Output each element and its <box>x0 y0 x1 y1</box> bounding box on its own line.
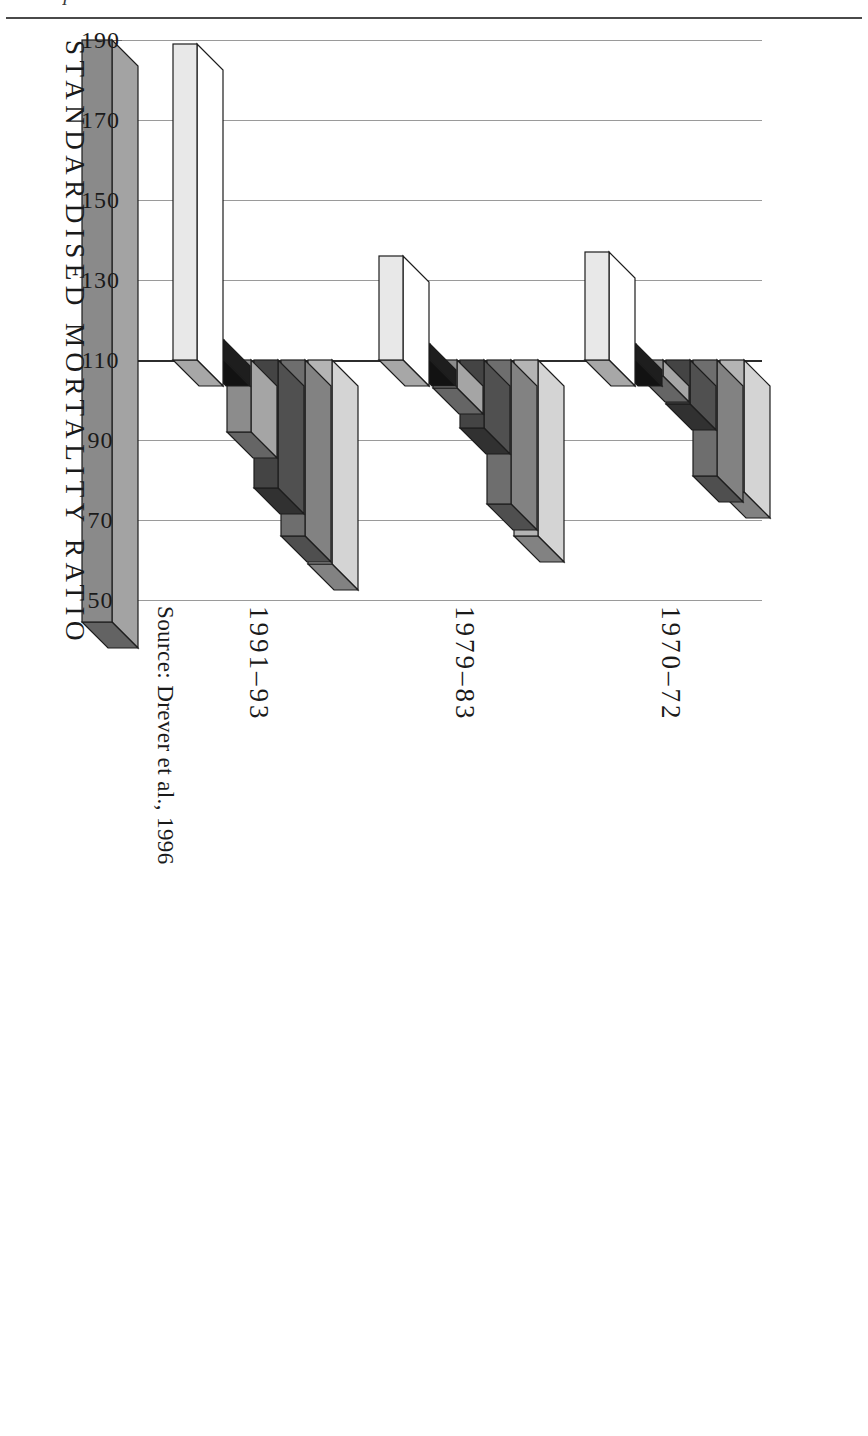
source-note: Source: Drever et al., 1996 <box>152 606 178 926</box>
rotated-figure-wrapper: IIIIIINMIIIMIVV STANDARDISED MORTALITY R… <box>90 0 790 1070</box>
tick-label: 170 <box>66 107 136 134</box>
book-page: I IIIIIINMIIIMIVV STANDARDISED MORTALITY… <box>0 0 868 1436</box>
plot-area <box>122 40 762 600</box>
legend-label: V <box>216 0 250 22</box>
category-label: 1970–72 <box>655 606 686 796</box>
gridline <box>122 520 762 521</box>
tick-label: 190 <box>66 27 136 54</box>
tick-label: 90 <box>66 427 136 454</box>
category-label: 1979–83 <box>449 606 480 796</box>
legend-item: IIINM <box>454 0 550 22</box>
bar-3d <box>169 44 223 390</box>
legend-item: II <box>554 0 650 22</box>
gridline <box>122 600 762 601</box>
bar-3d <box>375 256 429 390</box>
legend-label: I <box>716 0 750 22</box>
tick-label: 150 <box>66 187 136 214</box>
legend-label: IV <box>316 0 350 22</box>
legend-item: IV <box>254 0 350 22</box>
category-label: 1991–93 <box>243 606 274 796</box>
gridline <box>122 440 762 441</box>
tick-label: 70 <box>66 507 136 534</box>
legend-label: IIIM <box>416 0 450 22</box>
bar-3d <box>581 252 635 390</box>
tick-label: 110 <box>66 347 136 374</box>
gridline <box>122 40 762 41</box>
legend-item: IIIM <box>354 0 450 22</box>
bar-chart-figure: IIIIIINMIIIMIVV STANDARDISED MORTALITY R… <box>90 0 790 1070</box>
legend-item: V <box>154 0 250 22</box>
tick-label: 130 <box>66 267 136 294</box>
chart-legend: IIIIIINMIIIMIVV <box>150 0 750 22</box>
legend-label: II <box>616 0 650 22</box>
tick-label: 50 <box>66 587 136 614</box>
legend-item: I <box>654 0 750 22</box>
legend-label: IIINM <box>516 0 550 22</box>
